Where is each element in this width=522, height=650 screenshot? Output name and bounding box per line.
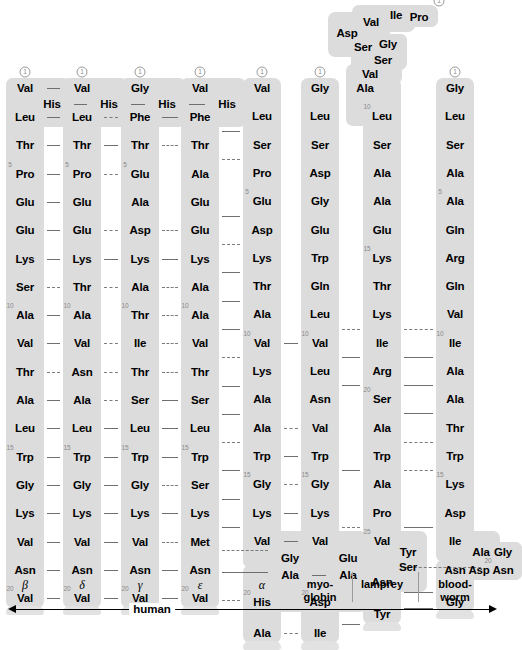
residue-delta-14: Leu <box>72 422 92 434</box>
homology-link <box>104 117 118 118</box>
homology-link <box>162 372 178 373</box>
residue-epsilon-4: Thr <box>191 139 209 151</box>
column-divider <box>418 572 419 602</box>
residue-gamma-16: Gly <box>131 479 149 491</box>
residue-gamma-3: Phe <box>130 111 151 123</box>
residue-number: 5 <box>245 188 249 195</box>
residue-lamprey-6: Gly <box>379 38 397 50</box>
start-marker-epsilon: 1 <box>195 67 206 78</box>
residue-myoglobin-9: Leu <box>310 308 330 320</box>
residue-lamprey-1: Pro <box>410 11 429 23</box>
residue-lamprey-10: Leu <box>372 110 392 122</box>
residue-alpha-21: Ala <box>253 627 270 639</box>
homology-link <box>162 145 178 146</box>
homology-link <box>47 542 60 543</box>
homology-link <box>47 88 60 89</box>
residue-epsilon-13: Ser <box>191 394 209 406</box>
residue-myoglobin-15: Gly <box>311 478 329 490</box>
residue-bloodworm-3: Ser <box>446 139 464 151</box>
residue-number: 15 <box>363 244 370 251</box>
residue-bloodworm-7: Arg <box>445 252 464 264</box>
homology-link <box>47 315 60 316</box>
residue-alpha-19: Ala <box>281 569 298 581</box>
residue-epsilon-2: His <box>218 98 235 110</box>
homology-link <box>404 385 433 386</box>
residue-gamma-2: His <box>158 98 175 110</box>
residue-beta-16: Gly <box>16 479 34 491</box>
residue-lamprey-21: Ala <box>373 422 390 434</box>
residue-gamma-13: Ser <box>131 394 149 406</box>
residue-myoglobin-14: Trp <box>311 450 328 462</box>
residue-lamprey-13: Ala <box>373 195 390 207</box>
homology-link <box>74 104 87 105</box>
residue-lamprey-25: Val <box>374 535 390 547</box>
residue-epsilon-3: Phe <box>190 111 211 123</box>
residue-number: 15 <box>6 443 13 450</box>
homology-link <box>104 400 118 401</box>
homology-link <box>222 329 240 330</box>
ribbon-tail <box>243 641 281 650</box>
homology-link <box>162 457 178 458</box>
homology-link <box>162 485 178 486</box>
residue-delta-12: Asn <box>71 366 92 378</box>
homology-link <box>162 570 178 571</box>
homology-link <box>162 117 178 118</box>
residue-beta-13: Ala <box>16 394 33 406</box>
residue-alpha-17: Val <box>254 535 270 547</box>
column-label-delta: δ <box>79 578 85 593</box>
residue-beta-6: Glu <box>16 196 35 208</box>
residue-bloodworm-5: Ala <box>446 195 463 207</box>
residue-alpha-11: Lys <box>253 365 272 377</box>
residue-alpha-20: His <box>253 596 270 608</box>
residue-bloodworm-13: Thr <box>446 422 464 434</box>
ribbon-tail <box>181 606 219 615</box>
residue-myoglobin-8: Gln <box>311 280 330 292</box>
homology-link <box>47 570 60 571</box>
residue-alpha-16: Lys <box>253 507 272 519</box>
residue-epsilon-1: Val <box>192 82 208 94</box>
residue-number: 15 <box>121 443 128 450</box>
residue-bloodworm-20: Asn <box>492 564 513 576</box>
ribbon-tail <box>63 606 101 615</box>
homology-link <box>47 287 60 288</box>
residue-beta-9: Ser <box>16 281 34 293</box>
homology-link <box>284 343 298 344</box>
ribbon-tail <box>301 641 339 650</box>
homology-link <box>104 372 118 373</box>
human-axis-arrow-left <box>8 605 16 613</box>
residue-beta-12: Thr <box>16 366 34 378</box>
column-label-beta: β <box>22 578 28 593</box>
residue-number: 10 <box>363 103 370 110</box>
residue-beta-8: Lys <box>16 253 35 265</box>
residue-delta-5: Pro <box>73 168 92 180</box>
residue-bloodworm-1: Gly <box>446 82 464 94</box>
residue-delta-2: His <box>100 98 117 110</box>
residue-number: 10 <box>121 302 128 309</box>
residue-epsilon-20: Val <box>192 592 208 604</box>
homology-link <box>162 400 178 401</box>
residue-gamma-10: Thr <box>131 309 149 321</box>
homology-link <box>404 413 433 414</box>
homology-link <box>222 244 240 245</box>
residue-lamprey-17: Lys <box>373 308 392 320</box>
residue-epsilon-5: Ala <box>191 168 208 180</box>
residue-beta-14: Leu <box>15 422 35 434</box>
residue-beta-10: Ala <box>16 309 33 321</box>
homology-link <box>284 541 298 542</box>
residue-lamprey-2: Ile <box>390 9 402 21</box>
homology-link <box>342 329 360 330</box>
homology-link <box>104 513 118 514</box>
ribbon-tail <box>436 610 474 619</box>
residue-myoglobin-7: Trp <box>311 252 328 264</box>
homology-link <box>47 598 60 599</box>
homology-link <box>162 287 178 288</box>
residue-delta-10: Ala <box>73 309 90 321</box>
residue-lamprey-26: Tyr <box>400 546 416 558</box>
homology-link <box>222 414 240 415</box>
residue-beta-20: Val <box>17 592 33 604</box>
residue-epsilon-18: Met <box>190 536 209 548</box>
homology-link <box>404 442 433 443</box>
homology-link <box>162 598 178 599</box>
residue-gamma-19: Asn <box>129 564 150 576</box>
residue-gamma-6: Ala <box>131 196 148 208</box>
